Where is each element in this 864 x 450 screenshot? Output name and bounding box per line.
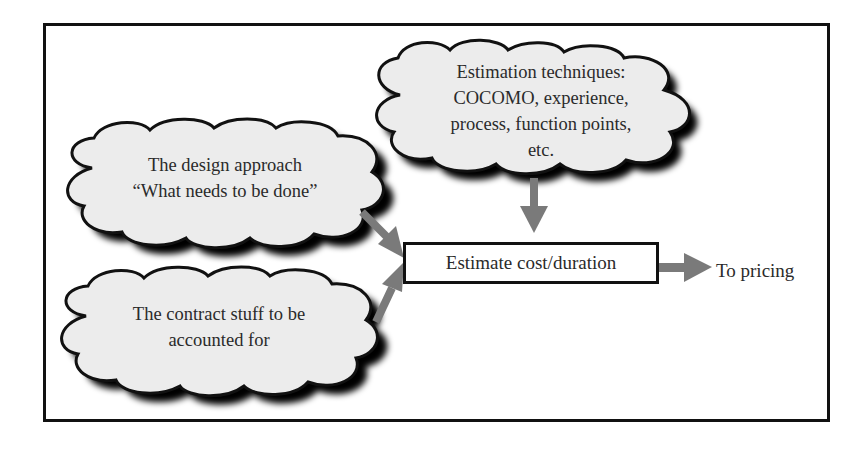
cloud-line: process, function points, bbox=[396, 111, 686, 137]
arrow-estimation-to-box bbox=[520, 178, 548, 233]
cloud-text-contract-stuff: The contract stuff to be accounted for bbox=[84, 301, 354, 353]
diagram-canvas: Estimation techniques: COCOMO, experienc… bbox=[0, 0, 864, 450]
output-label-pricing: To pricing bbox=[716, 258, 794, 284]
arrow-contract-to-box bbox=[376, 262, 404, 322]
process-box-estimate: Estimate cost/duration bbox=[403, 242, 659, 284]
cloud-line: Estimation techniques: bbox=[396, 59, 686, 85]
cloud-line: “What needs to be done” bbox=[90, 178, 360, 204]
cloud-line: etc. bbox=[396, 137, 686, 163]
cloud-text-estimation-techniques: Estimation techniques: COCOMO, experienc… bbox=[396, 59, 686, 163]
cloud-line: The design approach bbox=[90, 152, 360, 178]
arrow-box-to-pricing bbox=[658, 253, 712, 282]
cloud-line: COCOMO, experience, bbox=[396, 85, 686, 111]
cloud-text-design-approach: The design approach “What needs to be do… bbox=[90, 152, 360, 204]
cloud-line: The contract stuff to be bbox=[84, 301, 354, 327]
cloud-line: accounted for bbox=[84, 327, 354, 353]
process-box-label: Estimate cost/duration bbox=[446, 252, 616, 274]
